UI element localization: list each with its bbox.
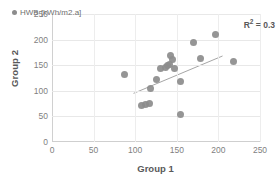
y-axis-tick-label: 100 [34,86,48,96]
x-axis-line [52,141,260,142]
data-point [153,76,160,83]
grid-line-horizontal [52,116,260,117]
data-point [190,39,197,46]
data-point [147,85,154,92]
y-axis-title: Group 2 [9,29,20,109]
x-axis-tick-label: 0 [50,145,55,155]
y-axis-tick-label: 150 [34,60,48,70]
legend: HWB [kWh/m2.a] [12,8,81,17]
data-point [197,55,204,62]
data-point [230,58,237,65]
grid-line-vertical [135,14,136,142]
grid-line-horizontal [52,40,260,41]
y-axis-line [52,14,53,142]
scatter-chart: Group 2 Group 1 050100150200250050100150… [0,0,277,180]
x-axis-tick-label: 100 [128,145,142,155]
data-point [171,65,178,72]
r2-value: = 0.3 [253,20,275,30]
grid-line-horizontal [52,65,260,66]
r-squared-annotation: R2 = 0.3 [244,18,275,30]
grid-line-vertical [94,14,95,142]
data-point [177,78,184,85]
grid-line-horizontal [52,91,260,92]
grid-line-vertical [260,14,261,142]
data-point [121,71,128,78]
x-axis-tick-label: 200 [211,145,225,155]
y-axis-tick-label: 50 [39,111,48,121]
y-axis-tick-label: 200 [34,35,48,45]
legend-label: HWB [kWh/m2.a] [20,8,81,17]
x-axis-title: Group 1 [48,163,263,174]
y-axis-tick-label: 0 [43,137,48,147]
x-axis-tick-label: 50 [89,145,98,155]
circle-marker-icon [12,10,17,15]
x-axis-tick-label: 150 [170,145,184,155]
grid-line-horizontal [52,14,260,15]
x-axis-tick-label: 250 [253,145,267,155]
data-point [146,100,153,107]
data-point [169,56,176,63]
plot-area: 050100150200250050100150200250 [52,14,260,142]
